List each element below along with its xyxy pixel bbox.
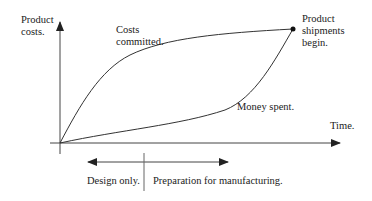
y-axis-label-line1: Product [21,14,54,26]
costs-committed-label-line1: Costs [116,24,164,36]
y-axis-label: Product costs. [21,14,54,38]
endpoint-label: Product shipments begin. [302,13,345,49]
endpoint-label-line3: begin. [302,37,345,49]
x-axis-label: Time. [330,120,354,132]
costs-committed-label-line2: committed. [116,36,164,48]
costs-committed-label: Costs committed. [116,24,164,48]
y-axis-label-line2: costs. [21,26,54,38]
money-spent-label: Money spent. [237,101,294,113]
design-only-label: Design only. [87,175,140,187]
endpoint-label-line2: shipments [302,25,345,37]
endpoint-label-line1: Product [302,13,345,25]
shipment-point [291,27,296,32]
preparation-label: Preparation for manufacturing. [153,175,283,187]
costs-committed-curve [60,29,293,143]
